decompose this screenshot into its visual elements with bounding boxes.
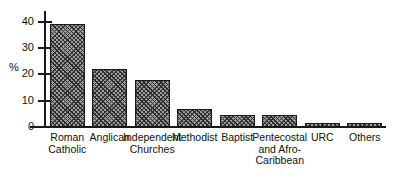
y-axis-tick-label: 20 — [12, 68, 34, 79]
bar-chart: % 010203040 Roman CatholicAnglicanIndepe… — [0, 0, 393, 185]
plot-area — [46, 11, 386, 127]
y-axis-tick-label: 30 — [12, 42, 34, 53]
bar — [262, 115, 297, 127]
bar — [135, 80, 170, 127]
bar — [92, 69, 127, 127]
y-axis-tick-label: 10 — [12, 95, 34, 106]
x-axis-category-label: Others — [327, 132, 393, 144]
bar — [347, 123, 382, 127]
bar — [305, 123, 340, 127]
bar — [177, 109, 212, 127]
y-axis-tick-label: 40 — [12, 16, 34, 27]
bar — [50, 24, 85, 127]
bar — [220, 115, 255, 127]
